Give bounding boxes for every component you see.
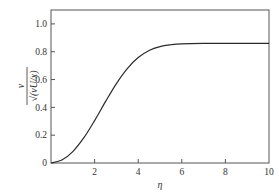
x-axis-label: η: [158, 179, 163, 190]
data-line: [51, 43, 269, 163]
y-axis-label-denominator: √(νU/x): [28, 70, 40, 102]
y-tick-label: 0.2: [35, 130, 47, 140]
y-tick-label: 0.4: [35, 103, 47, 113]
y-tick-label: 0: [42, 158, 47, 168]
x-tick-label: 10: [264, 167, 274, 177]
x-tick-label: 6: [179, 167, 184, 177]
x-tick-label: 2: [92, 167, 97, 177]
y-axis-label-numerator: v: [15, 83, 26, 88]
x-axis-ticks: 246810: [92, 159, 274, 177]
chart: 246810 00.20.40.60.81.0 η v √(νU/x): [0, 0, 279, 196]
y-axis-label: v √(νU/x): [15, 67, 40, 105]
x-tick-label: 4: [136, 167, 141, 177]
x-tick-label: 8: [223, 167, 228, 177]
y-tick-label: 1.0: [35, 19, 47, 29]
y-tick-label: 0.8: [35, 47, 47, 57]
plot-frame: [51, 10, 269, 163]
